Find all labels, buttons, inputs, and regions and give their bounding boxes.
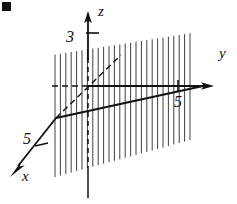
- diagram-canvas: 3 z 5 y 5 x: [0, 0, 237, 204]
- z-axis: [84, 11, 99, 198]
- z-tick-label-3: 3: [65, 28, 74, 45]
- z-axis-label: z: [97, 3, 104, 19]
- y-axis-label: y: [217, 45, 226, 61]
- x-axis: [10, 118, 56, 177]
- figure-root: 3 z 5 y 5 x: [0, 0, 237, 204]
- x-tick-label-5: 5: [23, 130, 31, 147]
- corner-artifact-mark: [2, 2, 11, 11]
- x-axis-label: x: [21, 168, 29, 184]
- y-tick-label-5: 5: [174, 93, 182, 110]
- hatched-plane: [55, 33, 190, 177]
